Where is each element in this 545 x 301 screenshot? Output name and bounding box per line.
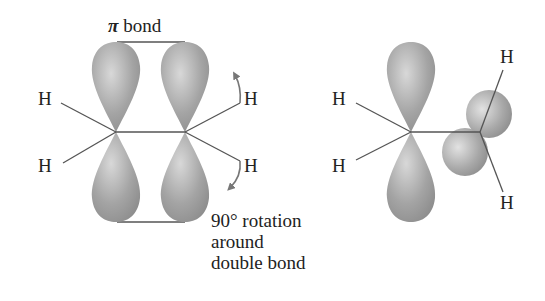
- p-orbital-lobe-lower: [387, 132, 435, 222]
- atom-h-right-upper-left: H: [332, 89, 346, 108]
- pi-bond-label: π bond: [108, 16, 161, 35]
- p-orbital-lobe-lower-left: [92, 132, 140, 222]
- p-orbital-lobe-upper-left: [92, 42, 140, 132]
- atom-h-lower-right: H: [244, 156, 258, 175]
- atom-h-right-top: H: [500, 47, 514, 66]
- atom-h-upper-right: H: [244, 89, 258, 108]
- atom-h-lower-left: H: [38, 156, 52, 175]
- atom-h-upper-left: H: [38, 89, 52, 108]
- p-orbital-lobe-upper: [387, 42, 435, 132]
- atom-h-right-lower-left: H: [332, 156, 346, 175]
- p-orbital-lobe-upper-right: [161, 42, 209, 132]
- p-orbital-lobe-lower-right: [161, 132, 209, 222]
- rotation-arrow-up-icon: [235, 75, 240, 103]
- atom-h-right-bottom: H: [500, 193, 514, 212]
- right-structure: [356, 42, 512, 222]
- rotation-arrow-down-icon: [230, 161, 240, 188]
- left-structure: [61, 42, 240, 222]
- rotation-caption: 90° rotation around double bond: [211, 210, 305, 273]
